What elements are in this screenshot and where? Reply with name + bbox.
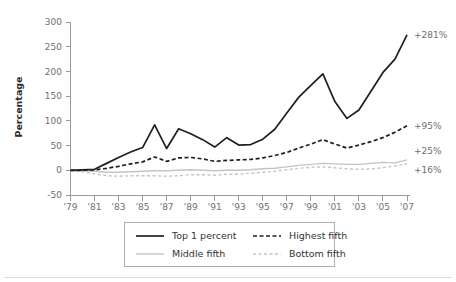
chart-legend: Top 1 percentMiddle fifthHighest fifthBo… <box>125 223 348 267</box>
series-line-top-1-percent <box>71 35 408 170</box>
legend-border <box>125 223 335 267</box>
series-line-middle-fifth <box>71 160 408 172</box>
income-growth-chart-figure: Percentage 300250200150100500-50 '79'81'… <box>0 0 456 282</box>
x-tick-label: '01 <box>328 202 342 212</box>
y-tick-label: 50 <box>51 141 63 151</box>
x-tick-label: '03 <box>352 202 366 212</box>
legend-label-middle-fifth: Middle fifth <box>172 248 225 259</box>
x-tick-label: '87 <box>160 202 174 212</box>
y-tick-label: 100 <box>45 116 62 126</box>
chart-canvas: Percentage 300250200150100500-50 '79'81'… <box>0 0 456 282</box>
x-tick-label: '83 <box>112 202 126 212</box>
y-tick-label: 250 <box>45 42 62 52</box>
y-tick-label: 200 <box>45 67 62 77</box>
y-axis-ticks: 300250200150100500-50 <box>45 17 71 200</box>
y-tick-label: 150 <box>45 91 62 101</box>
annotation-highest-fifth: +95% <box>414 121 442 131</box>
series-line-highest-fifth <box>71 126 408 170</box>
legend-label-highest-fifth: Highest fifth <box>289 230 347 241</box>
x-tick-label: '89 <box>184 202 198 212</box>
x-tick-label: '07 <box>400 202 414 212</box>
annotation-middle-fifth: +25% <box>414 146 442 156</box>
x-tick-label: '81 <box>88 202 102 212</box>
x-tick-label: '99 <box>304 202 318 212</box>
series-lines <box>71 35 408 176</box>
y-tick-label: 0 <box>56 165 62 175</box>
legend-label-bottom-fifth: Bottom fifth <box>289 248 346 259</box>
x-tick-label: '79 <box>64 202 78 212</box>
x-tick-label: '91 <box>208 202 222 212</box>
annotation-top-1-percent: +281% <box>414 30 448 40</box>
x-tick-label: '85 <box>136 202 150 212</box>
legend-label-top-1-percent: Top 1 percent <box>171 230 237 241</box>
annotation-bottom-fifth: +16% <box>414 165 442 175</box>
x-tick-label: '93 <box>232 202 246 212</box>
y-tick-label: -50 <box>47 190 62 200</box>
y-tick-label: 300 <box>45 17 62 27</box>
x-tick-label: '97 <box>280 202 294 212</box>
end-annotations: +281%+95%+25%+16% <box>414 30 448 175</box>
x-tick-label: '95 <box>256 202 270 212</box>
y-axis-title: Percentage <box>13 76 24 137</box>
x-tick-label: '05 <box>376 202 390 212</box>
x-axis-ticks: '79'81'83'85'87'89'91'93'95'97'99'01'03'… <box>64 196 414 213</box>
